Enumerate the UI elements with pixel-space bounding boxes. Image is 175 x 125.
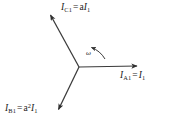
phasor-label-a1: IA1=I1 (120, 71, 145, 81)
phasor-label-b1: IB1=a2I1 (5, 104, 38, 114)
rotation-arc-icon (92, 48, 106, 60)
phasor-vector-a1 (79, 66, 137, 67)
phasor-vector-b1 (59, 67, 80, 110)
rotation-label-omega: ω (86, 50, 91, 57)
phasor-label-c1: IC1=aI1 (61, 3, 90, 13)
phasor-vector-c1 (51, 15, 80, 67)
phasor-diagram: IC1=aI1 IA1=I1 IB1=a2I1 ω (0, 0, 175, 125)
